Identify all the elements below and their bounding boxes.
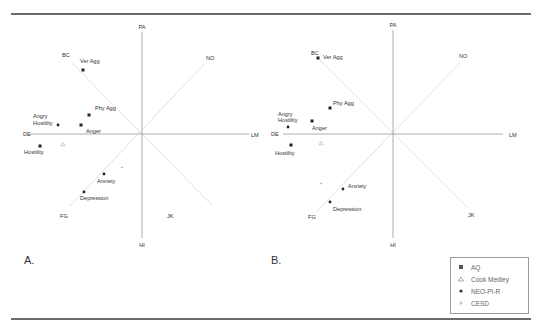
label-anger: Anger: [86, 128, 101, 134]
point-hostility: [39, 145, 42, 148]
point-cesd: +: [320, 180, 323, 186]
axis-label-lm: LM: [251, 132, 259, 138]
axis-no-fg: [70, 64, 204, 206]
legend-item-cook-medley: Cook Medley: [457, 276, 509, 283]
axis-label-no: NO: [459, 53, 468, 59]
axis-label-jk: JK: [167, 213, 174, 219]
label-ver-agg: Ver Agg: [80, 58, 100, 64]
panel-b: PA HI DE LM BC NO FG JK Ver Agg Phy Agg …: [271, 22, 517, 248]
point-depression: [83, 191, 86, 194]
legend-label: NEO-PI-R: [471, 288, 500, 295]
label-phy-agg: Phy Agg: [95, 105, 116, 111]
legend-item-cesd: CESD: [457, 300, 489, 307]
point-phy-agg: [88, 114, 91, 117]
legend-label: AQ: [471, 264, 480, 271]
axis-label-no: NO: [206, 55, 215, 61]
axis-label-bc: BC: [62, 52, 70, 58]
label-anger: Anger: [312, 125, 327, 131]
legend-label: CESD: [471, 300, 489, 307]
label-anxiety: Anxiety: [97, 178, 116, 184]
label-ver-agg: Ver Agg: [323, 54, 343, 60]
point-angry-hostility: [287, 126, 290, 129]
panel-b-label: B.: [271, 254, 281, 266]
point-depression: [329, 201, 332, 204]
square-marker-icon: [457, 264, 465, 271]
point-hostility: [290, 144, 293, 147]
point-angry-hostility: [57, 124, 60, 127]
axis-label-pa: PA: [138, 24, 145, 30]
axis-label-de: DE: [271, 131, 279, 137]
axis-label-lm: LM: [509, 132, 517, 138]
circle-marker-icon: [457, 288, 465, 295]
label-hostility: Hostility: [275, 150, 295, 156]
axis-label-jk: JK: [468, 212, 475, 218]
label-angry-hostility: Hostility: [33, 120, 53, 126]
point-cook-medley: [61, 143, 65, 146]
axis-label-pa: PA: [389, 22, 396, 28]
label-depression: Depression: [80, 195, 108, 201]
triangle-marker-icon: [457, 276, 465, 283]
point-anger: [80, 124, 83, 127]
point-ver-agg: [82, 69, 85, 72]
point-anxiety: [342, 188, 345, 191]
label-angry: Angry: [33, 113, 48, 119]
legend-item-aq: AQ: [457, 264, 480, 271]
plus-marker-icon: [457, 300, 465, 307]
axis-label-fg: FG: [60, 213, 68, 219]
point-anxiety: [103, 173, 106, 176]
legend-item-neo-pi-r: NEO-PI-R: [457, 288, 500, 295]
axis-label-bc: BC: [311, 50, 319, 56]
label-hostility: Hostility: [24, 149, 44, 155]
label-phy-agg: Phy Agg: [333, 100, 354, 106]
point-cesd: +: [121, 164, 124, 170]
panel-a: PA HI DE LM BC NO FG JK Ver Agg Phy Agg …: [23, 24, 259, 248]
point-anger: [311, 120, 314, 123]
axis-label-fg: FG: [308, 214, 316, 220]
point-phy-agg: [329, 107, 332, 110]
point-ver-agg: [317, 57, 320, 60]
axis-no-fg: [316, 63, 460, 212]
label-depression: Depression: [333, 206, 361, 212]
axis-label-hi: HI: [139, 242, 145, 248]
axis-label-de: DE: [23, 131, 31, 137]
label-anxiety: Anxiety: [348, 183, 367, 189]
legend: AQ Cook Medley NEO-PI-R CESD: [450, 257, 529, 314]
label-angry-hostility: Hostility: [278, 117, 298, 123]
legend-label: Cook Medley: [471, 276, 509, 283]
point-cook-medley: [319, 142, 323, 145]
axis-label-hi: HI: [390, 242, 396, 248]
panel-a-label: A.: [24, 254, 34, 266]
